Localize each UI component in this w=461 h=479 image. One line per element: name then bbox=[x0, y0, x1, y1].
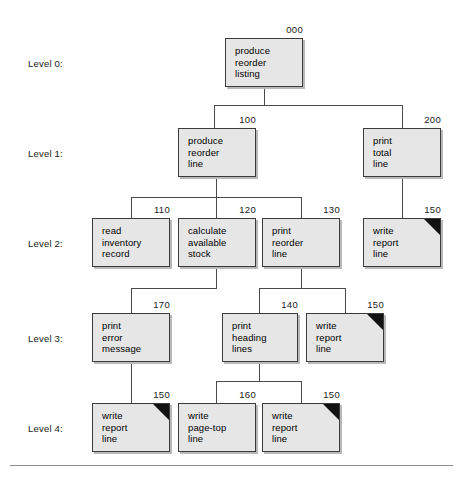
connector-segment bbox=[216, 177, 217, 197]
module-label-n170: print error message bbox=[102, 320, 141, 354]
module-label-n200: print total line bbox=[373, 135, 392, 169]
module-label-n150c: write report line bbox=[102, 410, 127, 444]
module-label-n140: print heading lines bbox=[232, 320, 267, 354]
module-box-n130[interactable]: print reorder line bbox=[262, 218, 340, 267]
module-box-n140[interactable]: print heading lines bbox=[222, 313, 298, 362]
module-label-n150b: write report line bbox=[316, 320, 341, 354]
connector-segment bbox=[216, 381, 302, 382]
module-label-n150d: write report line bbox=[272, 410, 297, 444]
module-number-n140: 140 bbox=[250, 299, 298, 310]
module-box-n200[interactable]: print total line bbox=[363, 128, 441, 177]
module-box-n100[interactable]: produce reorder line bbox=[178, 128, 256, 177]
connector-segment bbox=[214, 105, 403, 106]
module-label-n100: produce reorder line bbox=[188, 135, 223, 169]
level-label-4: Level 4: bbox=[28, 423, 63, 434]
connector-segment bbox=[259, 362, 260, 381]
module-number-n150a: 150 bbox=[393, 204, 441, 215]
connector-segment bbox=[264, 87, 265, 105]
level-label-2: Level 2: bbox=[28, 238, 63, 249]
module-box-n160[interactable]: write page-top line bbox=[178, 403, 256, 452]
module-number-n170: 170 bbox=[122, 299, 170, 310]
connector-segment bbox=[131, 288, 217, 289]
level-label-1: Level 1: bbox=[28, 148, 63, 159]
module-number-n150b: 150 bbox=[336, 299, 384, 310]
module-label-n160: write page-top line bbox=[188, 410, 226, 444]
connector-segment bbox=[301, 267, 302, 288]
module-box-n150c[interactable]: write report line bbox=[92, 403, 170, 452]
connector-segment bbox=[216, 267, 217, 288]
module-label-n000: produce reorder listing bbox=[235, 45, 270, 79]
module-number-n130: 130 bbox=[292, 204, 340, 215]
module-number-n150c: 150 bbox=[122, 389, 170, 400]
module-box-n120[interactable]: calculate available stock bbox=[178, 218, 256, 267]
module-label-n110: read inventory record bbox=[102, 225, 141, 259]
module-number-n150d: 150 bbox=[292, 389, 340, 400]
module-box-n150d[interactable]: write report line bbox=[262, 403, 340, 452]
structure-chart: Level 0:Level 1:Level 2:Level 3:Level 4:… bbox=[0, 0, 461, 479]
module-box-n170[interactable]: print error message bbox=[92, 313, 170, 362]
module-number-n100: 100 bbox=[208, 114, 256, 125]
module-number-n000: 000 bbox=[255, 24, 303, 35]
module-number-n200: 200 bbox=[393, 114, 441, 125]
module-box-n110[interactable]: read inventory record bbox=[92, 218, 170, 267]
module-number-n110: 110 bbox=[122, 204, 170, 215]
module-box-n150a[interactable]: write report line bbox=[363, 218, 441, 267]
module-number-n120: 120 bbox=[208, 204, 256, 215]
module-box-n150b[interactable]: write report line bbox=[306, 313, 384, 362]
connector-segment bbox=[259, 288, 346, 289]
footer-rule bbox=[10, 465, 453, 466]
module-label-n150a: write report line bbox=[373, 225, 398, 259]
module-number-n160: 160 bbox=[208, 389, 256, 400]
level-label-0: Level 0: bbox=[28, 58, 63, 69]
module-box-n000[interactable]: produce reorder listing bbox=[225, 38, 303, 87]
level-label-3: Level 3: bbox=[28, 333, 63, 344]
module-label-n130: print reorder line bbox=[272, 225, 303, 259]
module-label-n120: calculate available stock bbox=[188, 225, 226, 259]
